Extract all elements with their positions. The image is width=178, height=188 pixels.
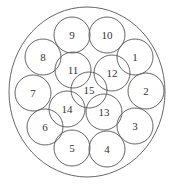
circle-label-12: 12 <box>107 67 118 79</box>
circle-label-5: 5 <box>69 142 75 154</box>
circle-label-6: 6 <box>42 121 48 133</box>
circle-label-8: 8 <box>40 51 46 63</box>
circle-label-9: 9 <box>69 29 75 41</box>
circle-packing-diagram: 123456789101112131415 <box>0 0 178 188</box>
circle-label-2: 2 <box>143 85 149 97</box>
circle-label-7: 7 <box>30 87 36 99</box>
circle-label-1: 1 <box>132 51 138 63</box>
circle-label-3: 3 <box>132 120 138 132</box>
diagram-canvas: 123456789101112131415 <box>0 0 178 188</box>
circle-label-13: 13 <box>99 106 111 118</box>
circle-label-11: 11 <box>68 64 79 76</box>
circle-label-4: 4 <box>104 143 110 155</box>
circle-label-10: 10 <box>102 29 114 41</box>
circle-label-14: 14 <box>62 103 74 115</box>
circle-label-15: 15 <box>84 84 96 96</box>
